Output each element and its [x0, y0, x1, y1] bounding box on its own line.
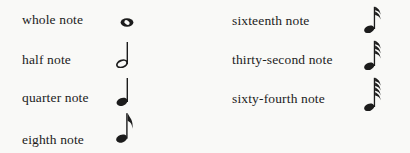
sixty-fourth-note-label: sixty-fourth note: [232, 92, 325, 106]
whole-note-icon: [120, 18, 134, 27]
quarter-note-icon: [116, 78, 129, 106]
half-note-label: half note: [22, 53, 71, 67]
thirty-second-note-label: thirty-second note: [232, 53, 333, 67]
thirty-second-note-icon: [364, 40, 384, 70]
quarter-note-label: quarter note: [22, 91, 89, 105]
half-note-icon: [116, 42, 129, 68]
eighth-note-icon: [116, 112, 135, 143]
sixteenth-note-label: sixteenth note: [232, 14, 309, 28]
whole-note-label: whole note: [22, 13, 83, 27]
sixteenth-note-icon: [364, 6, 384, 33]
sixty-fourth-note-icon: [364, 77, 384, 111]
eighth-note-label: eighth note: [22, 133, 84, 147]
note-glossary-page: whole note half note quarter note eighth…: [0, 0, 410, 153]
